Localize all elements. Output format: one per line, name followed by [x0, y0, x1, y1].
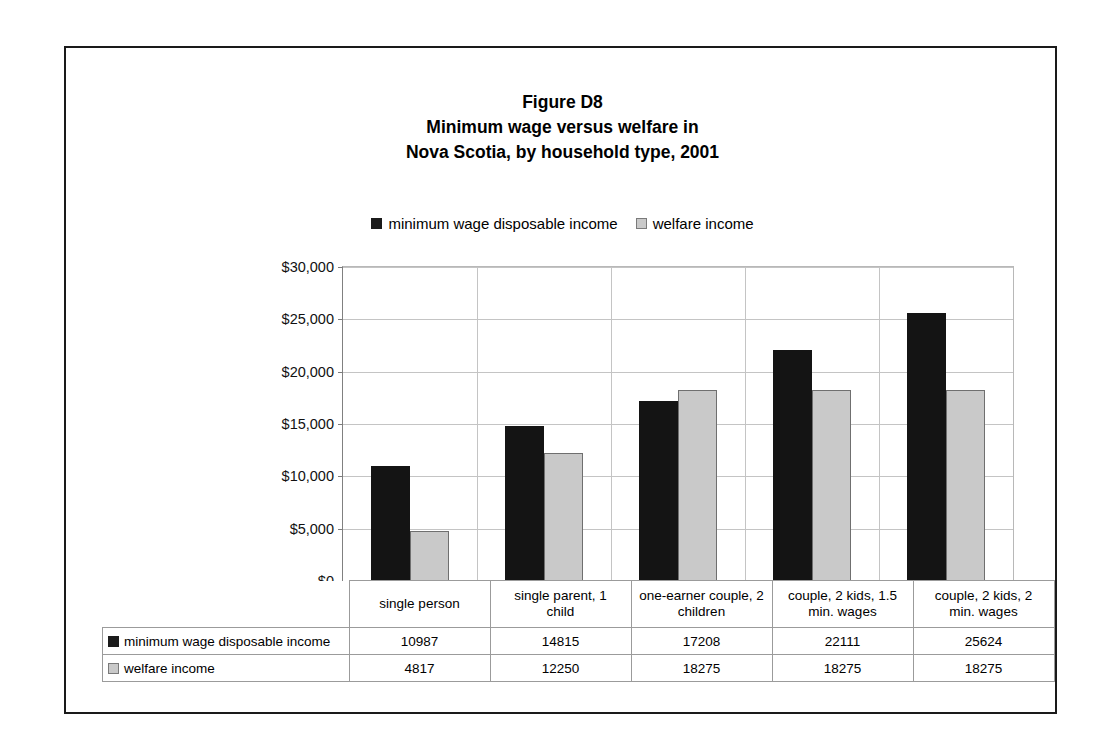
table-value-cell: 14815 [490, 628, 631, 655]
legend-swatch-icon-minimum-wage [371, 218, 382, 229]
y-axis-tick-label: $30,000 [282, 259, 334, 275]
table-row-minimum-wage: minimum wage disposable income 109871481… [103, 628, 1055, 655]
bar-group [611, 267, 745, 581]
table-category-header-line: single parent, 1 [494, 588, 628, 604]
table-row-welfare: welfare income 481712250182751827518275 [103, 655, 1055, 682]
table-value-cell: 18275 [913, 655, 1054, 682]
data-table: single personsingle parent, 1childone-ea… [102, 580, 1055, 682]
table-value-cell: 4817 [349, 655, 490, 682]
legend-entry-welfare: welfare income [636, 215, 754, 232]
table-category-header-line: min. wages [917, 604, 1051, 620]
chart-title-line-2: Minimum wage versus welfare in [66, 115, 1059, 140]
plot-area: $0$5,000$10,000$15,000$20,000$25,000$30,… [342, 266, 1014, 582]
table-value-cell: 10987 [349, 628, 490, 655]
bars-layer [343, 267, 1013, 581]
table-value-cell: 17208 [631, 628, 772, 655]
table-category-header-line: single person [353, 596, 487, 612]
table-value-cell: 12250 [490, 655, 631, 682]
legend-entry-minimum-wage: minimum wage disposable income [371, 215, 617, 232]
table-category-header-line: couple, 2 kids, 1.5 [776, 588, 910, 604]
y-axis-tick-label: $5,000 [290, 521, 334, 537]
y-axis-tick-label: $15,000 [282, 416, 334, 432]
legend-swatch-icon-welfare [636, 218, 647, 229]
table-key-minimum-wage: minimum wage disposable income [103, 628, 350, 655]
chart-legend: minimum wage disposable income welfare i… [66, 215, 1059, 232]
bar [505, 426, 544, 581]
table-category-header-line: children [635, 604, 769, 620]
bar-group [343, 267, 477, 581]
y-axis-tick-label: $25,000 [282, 311, 334, 327]
table-category-header-line: child [494, 604, 628, 620]
bar [907, 313, 946, 581]
table-value-cell: 18275 [631, 655, 772, 682]
legend-label-minimum-wage: minimum wage disposable income [388, 215, 617, 232]
bar [773, 350, 812, 581]
bar [678, 390, 717, 581]
bar [371, 466, 410, 581]
bar [946, 390, 985, 581]
bar [812, 390, 851, 581]
table-category-header: single parent, 1child [490, 581, 631, 628]
legend-label-welfare: welfare income [653, 215, 754, 232]
bar-group [477, 267, 611, 581]
table-swatch-icon-welfare [108, 663, 119, 674]
bar-group [745, 267, 879, 581]
table-key-welfare: welfare income [103, 655, 350, 682]
table-category-header: couple, 2 kids, 2min. wages [913, 581, 1054, 628]
table-category-header: couple, 2 kids, 1.5min. wages [772, 581, 913, 628]
chart-title-line-1: Figure D8 [66, 90, 1059, 115]
table-category-header-line: couple, 2 kids, 2 [917, 588, 1051, 604]
bar-group [879, 267, 1013, 581]
table-value-cell: 18275 [772, 655, 913, 682]
table-corner-spacer [103, 581, 350, 628]
chart-title-line-3: Nova Scotia, by household type, 2001 [66, 140, 1059, 165]
table-category-header: one-earner couple, 2children [631, 581, 772, 628]
figure-frame: Figure D8 Minimum wage versus welfare in… [64, 46, 1057, 714]
y-axis-tick-label: $10,000 [282, 468, 334, 484]
table-category-header-line: min. wages [776, 604, 910, 620]
y-axis-tick-label: $20,000 [282, 364, 334, 380]
table-category-header: single person [349, 581, 490, 628]
bar [410, 531, 449, 581]
table-value-cell: 25624 [913, 628, 1054, 655]
table-swatch-icon-minimum-wage [108, 636, 119, 647]
table-value-cell: 22111 [772, 628, 913, 655]
table-row-category-headers: single personsingle parent, 1childone-ea… [103, 581, 1055, 628]
bar [639, 401, 678, 581]
table-key-label-welfare: welfare income [124, 661, 215, 676]
table-category-header-line: one-earner couple, 2 [635, 588, 769, 604]
table-key-label-minimum-wage: minimum wage disposable income [124, 634, 330, 649]
bar [544, 453, 583, 581]
chart-title: Figure D8 Minimum wage versus welfare in… [66, 90, 1059, 165]
